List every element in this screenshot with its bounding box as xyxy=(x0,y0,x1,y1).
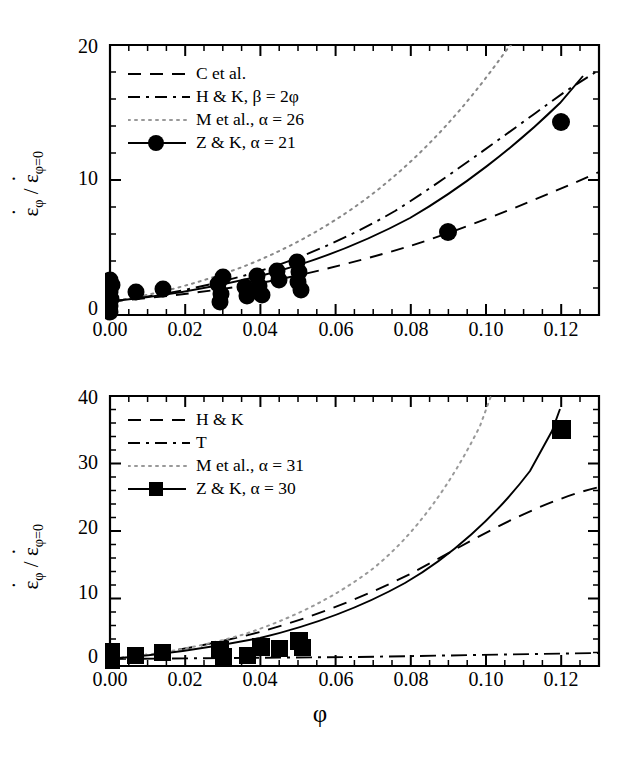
ytick-top-20: 20 xyxy=(48,35,98,58)
xtick-top-2: 0.04 xyxy=(220,318,300,341)
legend-item-z-and-k: Z & K, α = 21 xyxy=(128,131,304,154)
legend-label-h-and-k: H & K, β = 2φ xyxy=(190,85,299,108)
legend-item-h-and-k: H & K, β = 2φ xyxy=(128,85,304,108)
legend-item-m-et-al-bottom: M et al., α = 31 xyxy=(128,454,304,477)
xtick-top-5: 0.10 xyxy=(446,318,526,341)
legend-key-dashed-icon xyxy=(128,62,190,85)
y-axis-label-top: ε·φ / ε·φ=0 xyxy=(19,104,46,264)
ytick-top-10: 10 xyxy=(48,167,98,190)
ytick-bottom-10: 10 xyxy=(48,581,98,604)
xtick-top-1: 0.02 xyxy=(145,318,225,341)
legend-key-dashdot-icon xyxy=(128,431,190,454)
legend-label-h-and-k-bottom: H & K xyxy=(190,408,244,431)
legend-label-t: T xyxy=(190,431,207,454)
xtick-bottom-6: 0.12 xyxy=(521,668,601,691)
xtick-bottom-1: 0.02 xyxy=(145,668,225,691)
legend-item-t: T xyxy=(128,431,304,454)
ytick-bottom-30: 30 xyxy=(48,451,98,474)
xtick-bottom-0: 0.00 xyxy=(70,668,150,691)
legend-key-dashdot-short-icon xyxy=(128,85,190,108)
legend-label-z-and-k-bottom: Z & K, α = 30 xyxy=(190,477,296,500)
ytick-bottom-40: 40 xyxy=(48,386,98,409)
curve-h-and-k-bottom xyxy=(110,487,599,659)
legend-item-h-and-k-bottom: H & K xyxy=(128,408,304,431)
xtick-top-6: 0.12 xyxy=(521,318,601,341)
legend-item-z-and-k-bottom: Z & K, α = 30 xyxy=(128,477,304,500)
ytick-bottom-20: 20 xyxy=(48,516,98,539)
legend-label-c-et-al: C et al. xyxy=(190,62,246,85)
figure-root: ε·φ / ε·φ=0 0 10 20 xyxy=(0,0,621,761)
curve-t-bottom xyxy=(110,653,599,659)
xtick-top-0: 0.00 xyxy=(70,318,150,341)
ytick-bottom-0: 0 xyxy=(58,645,98,668)
legend-label-z-and-k: Z & K, α = 21 xyxy=(190,131,296,154)
legend-item-m-et-al: M et al., α = 26 xyxy=(128,108,304,131)
y-axis-label-bottom: ε·φ / ε·φ=0 xyxy=(19,477,46,637)
legend-top: C et al. H & K, β = 2φ M et al., α = 26 … xyxy=(128,62,304,154)
ytick-top-0: 0 xyxy=(58,297,98,320)
xtick-top-4: 0.08 xyxy=(371,318,451,341)
legend-key-solid-square-icon xyxy=(128,477,190,500)
legend-item-c-et-al: C et al. xyxy=(128,62,304,85)
legend-label-m-et-al: M et al., α = 26 xyxy=(190,108,304,131)
curve-c-et-al xyxy=(110,172,599,302)
xtick-top-3: 0.06 xyxy=(296,318,376,341)
legend-key-solid-circle-icon xyxy=(128,131,190,154)
xtick-bottom-2: 0.04 xyxy=(220,668,300,691)
legend-key-dotted-icon xyxy=(128,454,190,477)
panel-top: ε·φ / ε·φ=0 0 10 20 xyxy=(0,0,621,360)
xtick-bottom-4: 0.08 xyxy=(371,668,451,691)
x-axis-title: φ xyxy=(290,700,350,728)
xtick-bottom-5: 0.10 xyxy=(446,668,526,691)
xtick-bottom-3: 0.06 xyxy=(296,668,376,691)
legend-bottom: H & K T M et al., α = 31 Z & K, α = 30 xyxy=(128,408,304,500)
legend-label-m-et-al-bottom: M et al., α = 31 xyxy=(190,454,304,477)
legend-key-dotted-icon xyxy=(128,108,190,131)
legend-key-dashed-icon xyxy=(128,408,190,431)
